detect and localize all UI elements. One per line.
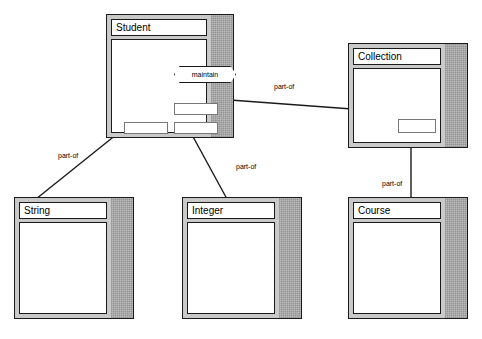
class-body-student: maintain xyxy=(111,39,207,133)
class-title-bar-course[interactable]: Course xyxy=(353,202,441,219)
connector-label-edge-student-string: part-of xyxy=(57,152,79,159)
attribute-slot-collection-slot[interactable] xyxy=(398,119,436,133)
class-box-inner-collection: Collection xyxy=(353,48,463,143)
connector-label-edge-student-integer: part-of xyxy=(235,163,257,170)
class-title-label-string: String xyxy=(24,206,50,216)
class-box-inner-student: Studentmaintain xyxy=(111,19,229,133)
class-body-collection xyxy=(353,68,441,143)
class-body-integer xyxy=(187,222,275,314)
class-title-bar-integer[interactable]: Integer xyxy=(187,202,275,219)
class-title-label-course: Course xyxy=(358,206,390,216)
class-title-label-collection: Collection xyxy=(358,52,402,62)
class-title-label-student: Student xyxy=(116,23,150,33)
connector-label-edge-student-collection: part-of xyxy=(273,83,295,90)
class-box-inner-integer: Integer xyxy=(187,202,297,314)
class-box-course[interactable]: Course xyxy=(348,197,468,319)
class-title-label-integer: Integer xyxy=(192,206,223,216)
attribute-slot-student-slot-upper[interactable] xyxy=(174,103,218,115)
attribute-slot-student-slot-left[interactable] xyxy=(124,122,168,134)
diagram-canvas: StudentmaintainCollectionStringIntegerCo… xyxy=(0,0,482,339)
class-box-collection[interactable]: Collection xyxy=(348,43,468,148)
attribute-slot-student-slot-mid[interactable] xyxy=(174,122,218,134)
class-box-student[interactable]: Studentmaintain xyxy=(106,14,234,138)
class-box-integer[interactable]: Integer xyxy=(182,197,302,319)
class-body-string xyxy=(19,222,107,314)
class-title-bar-string[interactable]: String xyxy=(19,202,107,219)
operation-node-maintain-node[interactable]: maintain xyxy=(174,66,236,83)
class-body-course xyxy=(353,222,441,314)
class-box-inner-string: String xyxy=(19,202,129,314)
class-box-inner-course: Course xyxy=(353,202,463,314)
connector-label-edge-collection-course: part-of xyxy=(381,180,403,187)
class-box-string[interactable]: String xyxy=(14,197,134,319)
class-title-bar-collection[interactable]: Collection xyxy=(353,48,441,65)
class-title-bar-student[interactable]: Student xyxy=(111,19,207,36)
operation-node-label-maintain-node: maintain xyxy=(192,71,218,78)
